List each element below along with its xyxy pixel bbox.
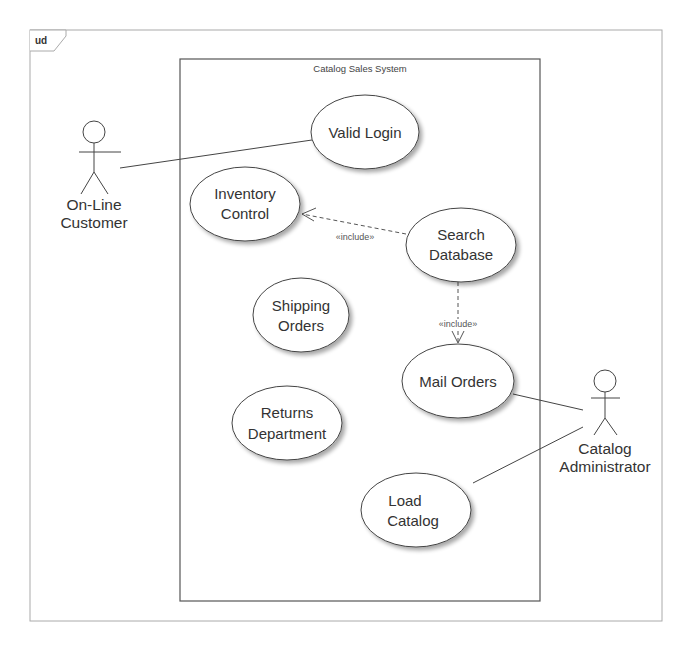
use-case-load-catalog[interactable]: Load Catalog xyxy=(361,473,471,547)
use-case-mail-orders[interactable]: Mail Orders xyxy=(402,344,514,418)
use-case-label-line1: Load xyxy=(388,492,421,509)
use-case-label: Mail Orders xyxy=(419,373,497,390)
stick-figure-icon xyxy=(591,370,620,435)
use-case-label-line2: Department xyxy=(248,425,327,442)
use-case-label: Valid Login xyxy=(328,124,401,141)
use-case-search-database[interactable]: Search Database xyxy=(406,208,516,282)
actor-catalog-administrator[interactable]: Catalog Administrator xyxy=(559,370,650,475)
use-case-ellipse[interactable] xyxy=(406,208,516,282)
use-case-label-line1: Search xyxy=(437,226,485,243)
use-case-label-line2: Control xyxy=(221,205,269,222)
use-case-label-line1: Shipping xyxy=(272,297,330,314)
use-case-label-line2: Catalog xyxy=(387,512,439,529)
actor-on-line-customer[interactable]: On-Line Customer xyxy=(60,121,127,231)
actor-label-line2: Customer xyxy=(60,214,127,231)
actor-label-line1: Catalog xyxy=(578,440,631,457)
include-label: «include» xyxy=(336,232,375,242)
use-case-returns-department[interactable]: Returns Department xyxy=(232,386,342,460)
frame-tag: ud xyxy=(35,35,47,46)
use-case-ellipse[interactable] xyxy=(190,167,300,241)
system-title: Catalog Sales System xyxy=(313,63,407,74)
use-case-ellipse[interactable] xyxy=(253,278,349,352)
use-case-diagram: ud Catalog Sales System «include» «inclu… xyxy=(0,0,687,646)
stick-figure-icon xyxy=(79,121,121,194)
actor-label-line1: On-Line xyxy=(66,196,121,213)
use-case-valid-login[interactable]: Valid Login xyxy=(311,95,419,169)
use-case-label-line1: Returns xyxy=(261,404,314,421)
include-label: «include» xyxy=(439,319,478,329)
use-case-label-line1: Inventory xyxy=(214,185,276,202)
use-case-shipping-orders[interactable]: Shipping Orders xyxy=(253,278,349,352)
use-case-inventory-control[interactable]: Inventory Control xyxy=(190,167,300,241)
use-case-ellipse[interactable] xyxy=(232,386,342,460)
actor-label-line2: Administrator xyxy=(559,458,650,475)
use-case-label-line2: Database xyxy=(429,246,493,263)
use-case-label-line2: Orders xyxy=(278,317,324,334)
use-case-ellipse[interactable] xyxy=(361,473,471,547)
